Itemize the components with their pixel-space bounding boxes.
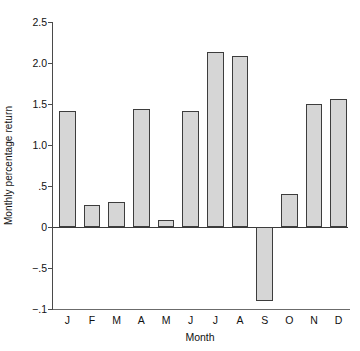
x-tick-label: A [138, 314, 145, 326]
bar [158, 220, 175, 227]
y-tick-label: 1.5 [32, 98, 47, 110]
y-tick-label: −.5 [32, 262, 47, 274]
x-tick-label: N [310, 314, 318, 326]
y-tick-label: 1.0 [32, 139, 47, 151]
bar [330, 99, 347, 227]
y-tick-mark [48, 227, 53, 228]
x-axis-tick-labels: JFMAMJJASOND [52, 314, 348, 330]
y-tick-mark [48, 104, 53, 105]
bar [133, 109, 150, 227]
x-tick-label: J [213, 314, 218, 326]
y-tick-mark [48, 22, 53, 23]
y-axis-spine [52, 22, 53, 309]
bar [256, 227, 273, 301]
x-tick-label: J [65, 314, 70, 326]
x-axis-spine [52, 309, 350, 310]
zero-baseline [52, 227, 348, 228]
y-tick-label: −.1 [32, 303, 47, 315]
y-tick-mark [48, 309, 53, 310]
y-tick-label: 2.5 [32, 16, 47, 28]
y-tick-label: 2.0 [32, 57, 47, 69]
x-tick-label: D [335, 314, 343, 326]
x-axis-title: Month [52, 331, 348, 343]
bar [281, 194, 298, 227]
bar-chart: Monthly percentage return 2.52.01.51.0.5… [0, 0, 360, 351]
bar [108, 202, 125, 227]
bar [59, 111, 76, 227]
x-tick-label: M [112, 314, 121, 326]
y-tick-mark [48, 63, 53, 64]
bar [84, 205, 101, 227]
x-tick-label: A [236, 314, 243, 326]
x-tick-label: S [261, 314, 268, 326]
y-tick-label: 0 [41, 221, 47, 233]
x-tick-label: O [285, 314, 293, 326]
y-tick-label: .5 [38, 180, 47, 192]
y-tick-mark [48, 268, 53, 269]
plot-area [52, 22, 348, 309]
y-tick-mark [48, 145, 53, 146]
x-tick-label: F [89, 314, 95, 326]
x-tick-label: J [188, 314, 193, 326]
bar [306, 104, 323, 227]
y-axis-title-text: Monthly percentage return [4, 105, 15, 224]
bar [207, 52, 224, 227]
bar [182, 111, 199, 227]
y-axis-title: Monthly percentage return [0, 0, 18, 330]
bar [232, 56, 249, 227]
x-tick-label: M [162, 314, 171, 326]
y-axis-tick-labels: 2.52.01.51.0.50−.5−.1 [18, 0, 50, 351]
y-tick-mark [48, 186, 53, 187]
